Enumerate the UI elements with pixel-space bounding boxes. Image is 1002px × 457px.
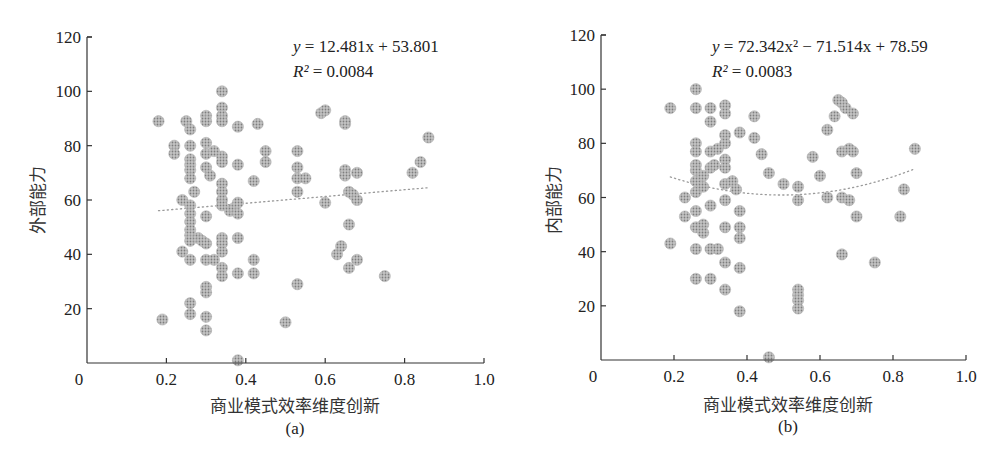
- data-point: [201, 325, 212, 336]
- data-point: [814, 170, 825, 181]
- data-point: [898, 184, 909, 195]
- data-point: [252, 118, 263, 129]
- data-point: [232, 355, 243, 366]
- data-point: [851, 168, 862, 179]
- panel-label-a: (a): [286, 419, 305, 438]
- data-point: [185, 124, 196, 135]
- data-point: [836, 249, 847, 260]
- data-point: [705, 200, 716, 211]
- data-point: [201, 116, 212, 127]
- data-point: [292, 162, 303, 173]
- data-point: [778, 178, 789, 189]
- data-point: [705, 273, 716, 284]
- y-tick-label: 60: [578, 189, 595, 208]
- y-tick-label: 120: [56, 28, 82, 47]
- regression-equation-a: y = 12.481x + 53.801: [291, 37, 439, 56]
- data-point: [232, 232, 243, 243]
- x-axis-title-a: 商业模式效率维度创新: [210, 396, 380, 416]
- data-point: [869, 257, 880, 268]
- data-point: [679, 192, 690, 203]
- data-point: [351, 254, 362, 265]
- data-point: [216, 116, 227, 127]
- data-point: [292, 146, 303, 157]
- data-point: [232, 197, 243, 208]
- data-point: [169, 148, 180, 159]
- y-axis-title-b: 内部能力: [544, 166, 564, 234]
- data-point: [807, 151, 818, 162]
- data-point: [895, 211, 906, 222]
- data-point: [709, 159, 720, 170]
- data-point: [793, 195, 804, 206]
- y-tick-label: 120: [570, 26, 596, 45]
- data-point: [690, 205, 701, 216]
- data-point: [756, 149, 767, 160]
- x-tick-label: 0.4: [736, 367, 758, 386]
- data-point: [793, 303, 804, 314]
- data-point: [201, 211, 212, 222]
- panel-label-b: (b): [778, 417, 798, 436]
- data-point: [292, 186, 303, 197]
- data-point: [320, 105, 331, 116]
- data-point: [201, 238, 212, 249]
- data-point: [407, 167, 418, 178]
- data-point: [423, 132, 434, 143]
- data-point: [415, 156, 426, 167]
- data-point: [690, 103, 701, 114]
- data-point: [734, 233, 745, 244]
- data-point: [260, 146, 271, 157]
- data-point: [340, 170, 351, 181]
- data-point: [201, 311, 212, 322]
- y-tick-label: 40: [578, 243, 595, 262]
- y-tick-label: 40: [64, 245, 81, 264]
- x-tick-label: 0: [75, 370, 84, 389]
- data-point: [292, 279, 303, 290]
- data-point: [185, 254, 196, 265]
- data-point: [379, 271, 390, 282]
- x-axis-title-b: 商业模式效率维度创新: [703, 395, 873, 415]
- y-tick-label: 20: [578, 297, 595, 316]
- data-point: [847, 146, 858, 157]
- data-point: [822, 192, 833, 203]
- x-tick-label: 0.6: [809, 367, 830, 386]
- data-point: [734, 127, 745, 138]
- data-point: [216, 271, 227, 282]
- data-point: [690, 84, 701, 95]
- data-point: [829, 111, 840, 122]
- x-tick-label: 0: [589, 367, 598, 386]
- data-point: [153, 116, 164, 127]
- data-point: [763, 168, 774, 179]
- data-point: [679, 211, 690, 222]
- data-point: [189, 186, 200, 197]
- data-point: [734, 262, 745, 273]
- x-tick-label: 1.0: [473, 370, 494, 389]
- data-point: [248, 254, 259, 265]
- x-tick-label: 0.6: [315, 370, 336, 389]
- data-point: [216, 86, 227, 97]
- y-tick-label: 80: [64, 137, 81, 156]
- data-point: [720, 257, 731, 268]
- data-point: [734, 222, 745, 233]
- data-point: [734, 205, 745, 216]
- y-tick-label: 100: [570, 80, 596, 99]
- data-point: [185, 309, 196, 320]
- axis-ticks-a: 00.20.40.60.81.020406080100120: [56, 28, 495, 389]
- data-point: [216, 246, 227, 257]
- data-point: [851, 211, 862, 222]
- points-a: [153, 86, 434, 366]
- scatter-plot-a: 00.20.40.60.81.020406080100120 y = 12.48…: [0, 0, 500, 457]
- points-b: [665, 84, 921, 363]
- scatter-plot-b: 00.20.40.60.81.020406080100120 y = 72.34…: [500, 0, 1002, 457]
- data-point: [248, 175, 259, 186]
- data-point: [351, 167, 362, 178]
- y-tick-label: 80: [578, 134, 595, 153]
- data-point: [822, 124, 833, 135]
- y-tick-label: 100: [56, 82, 82, 101]
- data-point: [698, 227, 709, 238]
- data-point: [185, 173, 196, 184]
- data-point: [260, 156, 271, 167]
- data-point: [665, 238, 676, 249]
- data-point: [351, 194, 362, 205]
- data-point: [793, 181, 804, 192]
- data-point: [205, 170, 216, 181]
- data-point: [720, 108, 731, 119]
